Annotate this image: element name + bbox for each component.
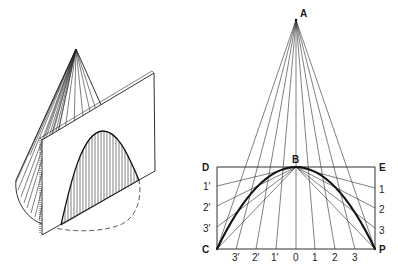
left-division-labels: 1′ 2′ 3′ [203, 181, 211, 234]
left-label-3p: 3′ [203, 223, 211, 234]
right-label-2: 2 [379, 204, 385, 215]
plane-corner-tr [152, 71, 154, 73]
cone-right-generator [76, 49, 102, 107]
left-label-2p: 2′ [203, 202, 211, 213]
right-label-1: 1 [379, 184, 385, 195]
right-division-labels: 1 2 3 [379, 184, 385, 236]
bottom-label-2: 2 [332, 252, 338, 263]
label-P: P [379, 244, 386, 255]
bottom-label-2p: 2′ [252, 252, 260, 263]
label-C: C [202, 244, 209, 255]
bottom-label-0: 0 [293, 252, 299, 263]
bottom-label-1: 1 [312, 252, 318, 263]
diagram-canvas: A B D E C P 3′ 2′ 1′ 0 1 2 3 1′ 2′ 3′ 1 … [0, 0, 398, 271]
cone-section-figure [16, 49, 155, 240]
label-A: A [300, 8, 307, 19]
apex-A-point [295, 19, 298, 22]
label-D: D [202, 162, 209, 173]
label-B: B [292, 154, 299, 165]
left-label-1p: 1′ [203, 181, 211, 192]
right-label-3: 3 [379, 225, 385, 236]
bottom-division-labels: 3′ 2′ 1′ 0 1 2 3 [232, 252, 358, 263]
bottom-label-1p: 1′ [271, 252, 279, 263]
bottom-label-3: 3 [352, 252, 358, 263]
bottom-label-3p: 3′ [232, 252, 240, 263]
label-E: E [379, 162, 386, 173]
parabola-construction: A B D E C P 3′ 2′ 1′ 0 1 2 3 1′ 2′ 3′ 1 … [202, 8, 386, 263]
rays-from-A [217, 20, 375, 249]
